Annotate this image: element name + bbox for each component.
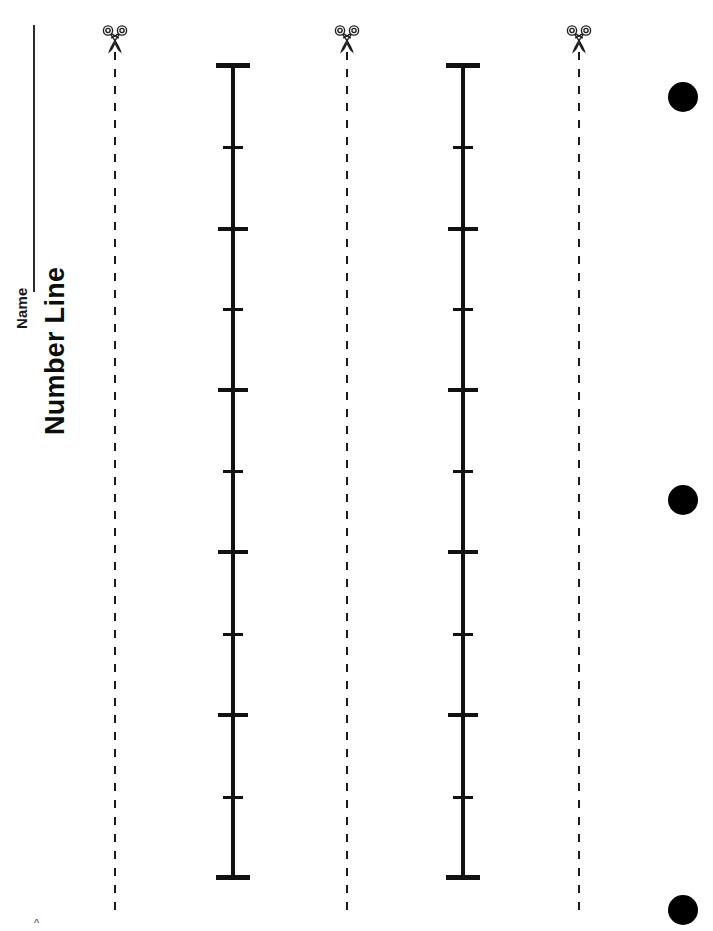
punch-hole-marker bbox=[668, 485, 698, 515]
number-line-tick-endpoint bbox=[216, 63, 250, 68]
cut-guide-dashed-line bbox=[578, 52, 580, 914]
punch-hole-marker bbox=[668, 895, 698, 925]
number-line-tick-endpoint bbox=[446, 63, 480, 68]
number-line bbox=[446, 64, 480, 880]
number-line-tick-major bbox=[218, 388, 248, 392]
corner-registration-mark: ^ bbox=[34, 918, 39, 929]
number-line-tick-minor bbox=[453, 146, 473, 149]
number-line-tick-endpoint bbox=[216, 875, 250, 880]
number-line-tick-minor bbox=[223, 308, 243, 311]
number-line-tick-minor bbox=[223, 633, 243, 636]
number-line-tick-minor bbox=[453, 633, 473, 636]
worksheet-page: Name Number Line bbox=[0, 0, 713, 931]
number-line bbox=[216, 64, 250, 880]
number-line-tick-minor bbox=[223, 470, 243, 473]
number-line-tick-major bbox=[448, 550, 478, 554]
number-line-tick-major bbox=[448, 227, 478, 231]
number-line-tick-major bbox=[448, 388, 478, 392]
page-title: Number Line bbox=[35, 225, 75, 435]
cut-guide-dashed-line bbox=[346, 52, 348, 914]
number-line-tick-major bbox=[218, 713, 248, 717]
punch-hole-marker bbox=[668, 82, 698, 112]
number-line-tick-minor bbox=[223, 796, 243, 799]
name-field-label: Name bbox=[11, 259, 33, 329]
number-line-tick-minor bbox=[453, 796, 473, 799]
number-line-tick-minor bbox=[453, 470, 473, 473]
number-line-tick-major bbox=[218, 227, 248, 231]
number-line-tick-major bbox=[218, 550, 248, 554]
number-line-tick-minor bbox=[453, 308, 473, 311]
number-line-tick-endpoint bbox=[446, 875, 480, 880]
number-line-tick-major bbox=[448, 713, 478, 717]
cut-guide-dashed-line bbox=[114, 52, 116, 914]
number-line-tick-minor bbox=[223, 146, 243, 149]
